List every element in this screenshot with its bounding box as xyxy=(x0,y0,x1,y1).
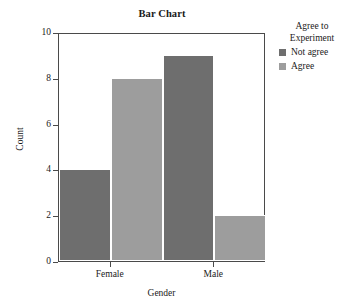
bar[interactable] xyxy=(111,78,163,261)
legend: Agree to Experiment Not agree Agree xyxy=(277,21,353,73)
x-axis-tick-label: Female xyxy=(75,269,145,280)
y-axis-title: Count xyxy=(15,109,25,169)
legend-swatch-icon-not-agree xyxy=(278,48,287,57)
y-axis-tick-mark xyxy=(53,262,58,263)
y-axis-tick-label: 4 xyxy=(27,165,51,175)
bars-container xyxy=(59,34,264,261)
legend-item-agree[interactable]: Agree xyxy=(277,60,353,73)
bar[interactable] xyxy=(59,169,111,261)
y-axis-tick-label: 2 xyxy=(27,211,51,221)
y-axis-tick-label: 10 xyxy=(27,28,51,38)
legend-title-line-1: Agree to xyxy=(277,21,347,33)
x-axis-tick-mark xyxy=(213,262,214,267)
legend-item-label: Not agree xyxy=(291,47,328,58)
x-axis-title: Gender xyxy=(58,288,265,298)
legend-title-line-2: Experiment xyxy=(277,33,347,45)
legend-item-label: Agree xyxy=(291,61,314,72)
bar-chart-figure: Bar Chart 0246810FemaleMale Count Gender… xyxy=(0,0,353,307)
plot-area xyxy=(58,33,265,262)
y-axis-tick-label: 6 xyxy=(27,120,51,130)
legend-swatch-icon-agree xyxy=(278,62,287,71)
y-axis-tick-label: 8 xyxy=(27,74,51,84)
x-axis-tick-label: Male xyxy=(178,269,248,280)
chart-title: Bar Chart xyxy=(58,8,266,20)
bar[interactable] xyxy=(214,215,266,261)
bar[interactable] xyxy=(163,55,215,261)
legend-item-not-agree[interactable]: Not agree xyxy=(277,46,353,59)
legend-title: Agree to Experiment xyxy=(277,21,347,44)
x-axis-tick-mark xyxy=(110,262,111,267)
y-axis-tick-label: 0 xyxy=(27,257,51,267)
